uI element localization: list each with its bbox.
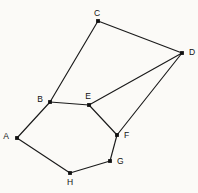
graph-canvas: ABCDEFGH: [0, 0, 198, 193]
graph-edge-d-f: [117, 53, 182, 135]
graph-vertex-a: [15, 136, 19, 140]
graph-vertex-label-e: E: [85, 91, 91, 101]
graph-vertex-label-d: D: [189, 47, 195, 57]
graph-vertex-label-a: A: [3, 131, 9, 141]
graph-edge-c-d: [98, 21, 182, 53]
graph-vertex-label-c: C: [94, 8, 100, 18]
graph-edge-g-h: [70, 161, 110, 173]
graph-vertex-label-b: B: [37, 94, 43, 104]
graph-vertex-label-h: H: [67, 177, 73, 187]
graph-labels-group: ABCDEFGH: [3, 8, 195, 187]
graph-vertex-label-g: G: [117, 156, 124, 166]
graph-vertex-d: [180, 51, 184, 55]
graph-vertex-h: [68, 171, 72, 175]
graph-vertex-f: [115, 133, 119, 137]
graph-vertex-g: [108, 159, 112, 163]
graph-edge-h-a: [17, 138, 70, 173]
graph-edge-b-e: [50, 102, 89, 105]
graph-vertex-e: [87, 103, 91, 107]
graph-edge-e-f: [89, 105, 117, 135]
graph-vertex-label-f: F: [124, 130, 129, 140]
graph-edge-d-e: [89, 53, 182, 105]
graph-vertex-c: [96, 19, 100, 23]
graph-edge-b-c: [50, 21, 98, 102]
graph-edge-a-b: [17, 102, 50, 138]
graph-edge-f-g: [110, 135, 117, 161]
graph-vertex-b: [48, 100, 52, 104]
graph-diagram-figure: ABCDEFGH: [0, 0, 198, 193]
